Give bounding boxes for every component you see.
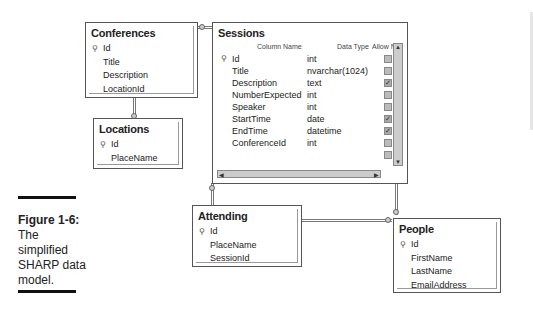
relation-end-icon	[199, 24, 205, 30]
table-conferences[interactable]: Conferences ⚲Id Title Description Locati…	[85, 22, 198, 98]
table-title: Attending	[198, 210, 248, 222]
relation-end-icon	[209, 185, 215, 191]
allow-null-checkbox[interactable]: ✓	[384, 115, 392, 123]
key-icon: ⚲	[199, 225, 205, 239]
table-people[interactable]: People ⚲Id FirstName LastName EmailAddre…	[393, 218, 501, 293]
field: Id	[103, 43, 111, 53]
column-header-type: Data Type	[337, 43, 369, 50]
scroll-right-icon[interactable]: ▶	[374, 171, 379, 178]
allow-null-checkbox[interactable]: ✓	[384, 127, 392, 135]
field: PlaceName	[199, 239, 257, 253]
table-locations[interactable]: Locations ⚲Id PlaceName	[93, 118, 183, 169]
allow-null-checkbox[interactable]	[384, 151, 392, 159]
figure-caption: Figure 1-6: The simplified SHARP data mo…	[18, 213, 86, 288]
column-header-nulls: Allow Nulls	[372, 43, 394, 50]
key-icon: ⚲	[92, 42, 98, 56]
key-icon: ⚲	[221, 54, 227, 63]
key-icon: ⚲	[400, 238, 406, 252]
table-title: Conferences	[91, 27, 155, 39]
table-sessions[interactable]: Sessions Column Name Data Type Allow Nul…	[212, 22, 408, 184]
key-icon: ⚲	[100, 138, 106, 152]
table-title: Locations	[99, 123, 149, 135]
relation-end-icon	[393, 209, 399, 215]
scroll-down-icon[interactable]: ▼	[395, 159, 401, 165]
field: Id	[411, 239, 419, 249]
field: PlaceName	[100, 152, 158, 166]
allow-null-checkbox[interactable]	[384, 91, 392, 99]
caption-rule-top	[18, 196, 76, 199]
field: Id	[210, 226, 218, 236]
horizontal-scrollbar[interactable]: ◀ ▶	[217, 170, 381, 178]
allow-null-checkbox[interactable]	[384, 55, 392, 63]
field: FirstName	[400, 252, 467, 266]
field: LocationId	[92, 83, 148, 97]
field: Title	[92, 56, 148, 70]
table-title: Sessions	[218, 27, 265, 39]
column-header-name: Column Name	[257, 43, 302, 50]
table-title: People	[399, 223, 434, 235]
allow-null-checkbox[interactable]: ✓	[384, 79, 392, 87]
allow-null-checkbox[interactable]	[384, 103, 392, 111]
field: Description	[92, 69, 148, 83]
field: Id	[111, 139, 119, 149]
field: EmailAddress	[400, 279, 467, 293]
field: LastName	[400, 265, 467, 279]
scroll-left-icon[interactable]: ◀	[219, 171, 224, 178]
caption-rule-bottom	[18, 290, 76, 293]
figure-label: Figure 1-6:	[18, 213, 86, 228]
table-attending[interactable]: Attending ⚲Id PlaceName SessionId	[192, 205, 302, 267]
vertical-scrollbar[interactable]: ▲ ▼	[393, 43, 403, 166]
scroll-up-icon[interactable]: ▲	[395, 44, 401, 50]
relation-attending-people	[302, 219, 392, 222]
allow-null-checkbox[interactable]	[384, 139, 392, 147]
field: SessionId	[199, 252, 257, 266]
relation-end-icon	[385, 217, 391, 223]
allow-null-checkbox[interactable]	[384, 67, 392, 75]
